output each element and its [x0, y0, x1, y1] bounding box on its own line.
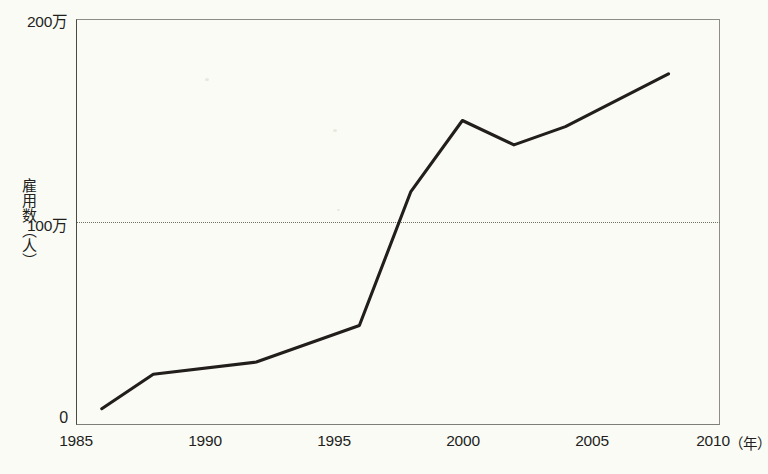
- employment-series-line: [102, 74, 669, 409]
- series-layer: [0, 0, 768, 474]
- employment-line-chart: 200万 100万 0 雇用数（人） 1985 1990 1995 2000 2…: [0, 0, 768, 474]
